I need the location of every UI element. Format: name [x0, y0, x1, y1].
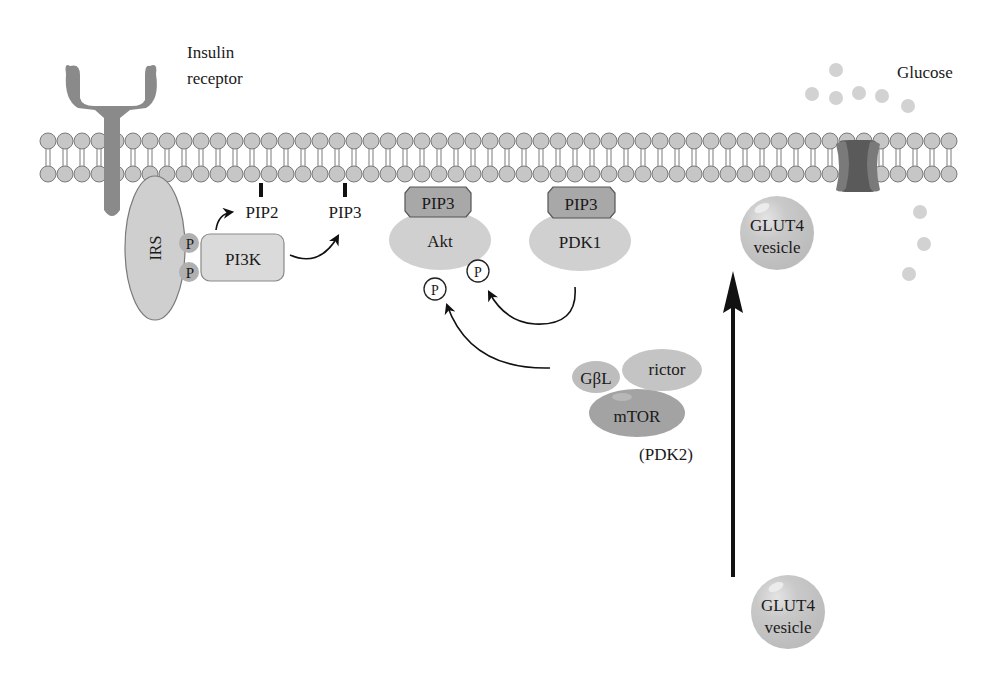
irs-protein: IRS	[125, 176, 185, 320]
glut4-vesicle-lower: GLUT4 vesicle	[751, 575, 825, 649]
svg-text:PI3K: PI3K	[225, 250, 262, 269]
svg-text:Akt: Akt	[427, 232, 453, 251]
svg-text:GβL: GβL	[580, 369, 611, 388]
svg-text:vesicle: vesicle	[753, 238, 800, 257]
phospho-site-1: P	[424, 278, 446, 300]
diagram-canvas: IRS P P PI3K PIP2 PIP3 Akt PIP3	[0, 0, 1001, 681]
svg-text:P: P	[186, 236, 194, 252]
pdk1-protein: PDK1	[529, 211, 631, 271]
arrow-pi3k-to-pip3	[290, 236, 338, 259]
mtorc2-complex: GβL rictor mTOR (PDK2)	[572, 349, 702, 464]
pip3-akt-anchor: PIP3	[405, 187, 471, 217]
insulin-receptor-label-line2: receptor	[187, 69, 243, 88]
svg-text:P: P	[431, 283, 439, 298]
pip2-marker	[259, 183, 263, 197]
svg-text:P: P	[186, 265, 194, 281]
pip3-label: PIP3	[328, 203, 361, 222]
arrow-pdk1-phosphorylates-akt	[489, 287, 575, 324]
arrow-mtorc2-phosphorylates-akt	[447, 305, 550, 368]
svg-text:vesicle: vesicle	[764, 618, 811, 637]
svg-text:PDK1: PDK1	[559, 233, 602, 252]
phospho-site-2: P	[467, 260, 489, 282]
svg-text:PIP3: PIP3	[564, 195, 597, 214]
svg-text:mTOR: mTOR	[614, 407, 662, 426]
glucose-label: Glucose	[897, 63, 953, 82]
svg-text:PIP3: PIP3	[421, 194, 454, 213]
pip2-label: PIP2	[245, 203, 278, 222]
pdk2-label: (PDK2)	[639, 445, 693, 464]
glut4-channel-icon	[836, 140, 880, 192]
pip3-pdk1-anchor: PIP3	[548, 187, 615, 218]
arrow-pi3k-to-pip2	[216, 212, 232, 230]
svg-text:IRS: IRS	[147, 236, 164, 261]
svg-text:GLUT4: GLUT4	[761, 596, 815, 615]
cell-membrane	[40, 133, 957, 182]
svg-text:rictor: rictor	[649, 360, 686, 379]
svg-text:P: P	[474, 265, 482, 280]
svg-text:GLUT4: GLUT4	[750, 216, 804, 235]
insulin-receptor-label-line1: Insulin	[187, 43, 235, 62]
glut4-translocation-arrow	[723, 271, 743, 577]
pip3-marker	[343, 183, 347, 197]
pi3k-protein: PI3K	[201, 234, 284, 281]
glut4-vesicle-upper: GLUT4 vesicle	[740, 196, 814, 270]
